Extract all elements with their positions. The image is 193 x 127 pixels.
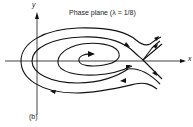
arrow-icon	[152, 71, 157, 76]
panel-label: (b)	[29, 113, 38, 120]
arrow-icon	[120, 78, 126, 83]
arrow-icon	[88, 51, 95, 57]
y-axis-label: y	[32, 1, 36, 8]
separatrix-upper	[143, 44, 162, 60]
y-axis-arrow-icon	[35, 12, 39, 19]
outer-loop	[21, 28, 161, 93]
diagram-title: Phase plane (λ = 1/8)	[69, 9, 136, 16]
x-axis-label: x	[188, 55, 192, 62]
x-axis-arrow-icon	[180, 59, 186, 63]
separatrix-lower	[143, 60, 162, 79]
inner-spiral	[58, 43, 132, 75]
separatrix-lower-outer	[128, 69, 160, 84]
arrow-icon	[124, 42, 130, 47]
trajectories	[21, 28, 162, 93]
phase-plane-diagram	[0, 0, 193, 127]
